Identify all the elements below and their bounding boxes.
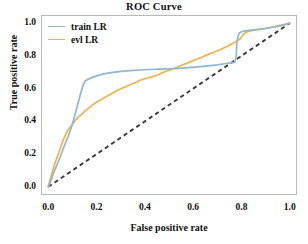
y-axis-tick-labels: 0.00.20.40.60.81.0 [6,15,36,195]
y-tick-label-3: 0.6 [10,84,36,94]
legend-item-evl-lr[interactable]: evl LR [48,33,153,46]
y-tick-label-1: 0.2 [10,149,36,159]
x-axis-label: False positive rate [41,222,297,233]
x-tick-label-1: 0.2 [80,203,114,213]
legend-label: evl LR [71,35,98,45]
y-tick-label-5: 1.0 [10,18,36,28]
y-tick-label-4: 0.8 [10,51,36,61]
x-tick-label-0: 0.0 [31,203,65,213]
y-tick-label-0: 0.0 [10,182,36,192]
x-tick-label-4: 0.8 [224,203,258,213]
chart-legend: train LRevl LR [48,20,153,46]
x-axis-tick-labels: 0.00.20.40.60.81.0 [41,203,297,217]
legend-item-train-lr[interactable]: train LR [48,20,153,33]
x-tick-label-5: 1.0 [273,203,307,213]
legend-swatch-icon [48,26,65,27]
y-tick-label-2: 0.4 [10,116,36,126]
roc-curve-figure: ROC Curve True positive rate 0.00.20.40.… [0,0,308,244]
x-tick-label-3: 0.6 [176,203,210,213]
chart-title: ROC Curve [0,1,308,12]
x-tick-label-2: 0.4 [128,203,162,213]
plot-area: train LRevl LR [41,15,297,195]
legend-swatch-icon [48,39,65,40]
legend-label: train LR [71,22,107,32]
